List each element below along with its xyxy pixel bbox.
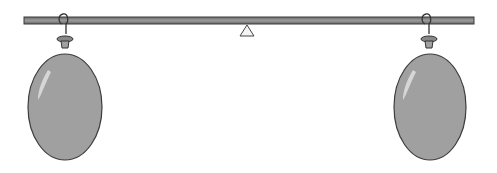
left-balloon-body: [28, 54, 102, 160]
beam: [24, 17, 474, 24]
right-balloon: [394, 14, 466, 160]
right-balloon-neck: [425, 41, 433, 48]
right-balloon-body: [394, 54, 466, 160]
left-balloon: [28, 14, 102, 160]
fulcrum: [240, 25, 254, 36]
left-balloon-neck: [61, 41, 69, 48]
balloon-balance-diagram: [0, 0, 497, 173]
